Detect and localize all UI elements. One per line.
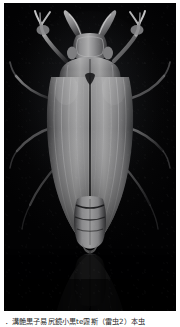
photo-grain bbox=[4, 3, 176, 311]
beetle-photograph bbox=[4, 3, 176, 311]
figure-caption: ．溝艶黒子易尻鏡小黒te霧斯（雷虫2）本虫 bbox=[5, 317, 177, 327]
figure-container: ．溝艶黒子易尻鏡小黒te霧斯（雷虫2）本虫 bbox=[0, 0, 180, 327]
